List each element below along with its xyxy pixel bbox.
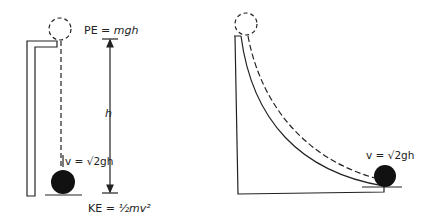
- ball-start-outline-right: [235, 13, 257, 35]
- ball-bottom: [51, 170, 75, 194]
- pe-label: PE = mgh: [84, 25, 138, 36]
- physics-diagram: [0, 0, 432, 220]
- ke-label: KE = ½mv²: [88, 203, 151, 214]
- ke-prefix: KE =: [88, 202, 118, 215]
- ball-bottom-right: [374, 165, 396, 187]
- arrow-head-down-icon: [107, 185, 113, 192]
- left-wall: [27, 41, 57, 196]
- ramp-frame: [234, 36, 384, 194]
- ramp-path-dashed: [248, 36, 375, 178]
- height-label: h: [105, 108, 112, 119]
- ball-start-outline: [49, 18, 71, 40]
- velocity-label-right: v = √2gh: [366, 150, 414, 161]
- pe-formula: mgh: [114, 24, 139, 37]
- right-figure: [234, 13, 402, 194]
- pe-prefix: PE =: [84, 24, 114, 37]
- velocity-label-left: v = √2gh: [65, 156, 113, 167]
- ke-formula: ½mv²: [118, 202, 150, 215]
- ramp-surface: [241, 36, 384, 186]
- arrow-head-up-icon: [107, 40, 113, 47]
